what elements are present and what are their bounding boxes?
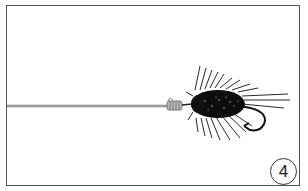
knot-wraps [167,98,182,110]
fly-body [186,66,290,140]
fly-knot-illustration [0,0,308,191]
hook [240,106,265,130]
step-number-badge: 4 [270,158,297,185]
